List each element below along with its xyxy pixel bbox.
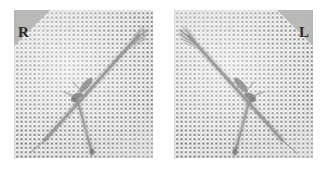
mesh-grid-texture — [14, 10, 153, 158]
specimen-panel-left: L — [174, 10, 313, 158]
figure-root: R — [0, 0, 327, 170]
specimen-panel-right: R — [14, 10, 153, 158]
mesh-grid-texture — [174, 10, 313, 158]
